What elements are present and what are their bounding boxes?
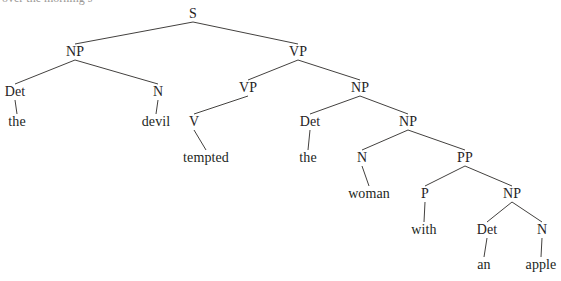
tree-edge-np2-np3 — [360, 96, 408, 114]
tree-node-n2: N — [357, 151, 367, 165]
tree-node-devil: devil — [142, 115, 171, 129]
tree-edge-np2-det2 — [310, 96, 360, 114]
tree-node-n3: N — [537, 223, 547, 237]
tree-edge-s-vp1 — [193, 22, 298, 44]
tree-node-an: an — [477, 258, 490, 272]
tree-node-the1: the — [8, 115, 25, 129]
tree-edge-pp1-np4 — [465, 166, 512, 186]
tree-node-vp2: VP — [239, 81, 257, 95]
tree-node-vp1: VP — [289, 45, 307, 59]
tree-edge-s-np1 — [75, 22, 193, 44]
tree-edge-vp1-vp2 — [248, 60, 298, 80]
tree-node-p1: P — [421, 187, 429, 201]
tree-node-det1: Det — [5, 85, 26, 99]
tree-node-v1: V — [189, 115, 199, 129]
tree-edge-det1-the1 — [15, 100, 17, 114]
tree-node-woman: woman — [348, 187, 390, 201]
tree-edge-vp1-np2 — [298, 60, 360, 80]
tree-edge-np4-n3 — [512, 202, 542, 222]
tree-edge-np3-pp1 — [408, 130, 465, 150]
tree-node-np3: NP — [399, 115, 417, 129]
tree-edge-n1-devil — [156, 100, 158, 114]
tree-edge-pp1-p1 — [425, 166, 465, 186]
tree-node-det3: Det — [477, 223, 498, 237]
tree-node-s: S — [189, 7, 197, 21]
tree-edge-n2-woman — [362, 166, 369, 186]
syntax-tree-figure: over the morning s SNPVPDetNVPNPthedevil… — [0, 0, 561, 281]
tree-edge-v1-tempted — [194, 130, 206, 150]
tree-edge-p1-with — [424, 202, 425, 222]
tree-edge-np1-det1 — [15, 60, 75, 84]
tree-edge-det3-an — [484, 238, 487, 257]
tree-node-tempted: tempted — [183, 151, 229, 165]
tree-node-n1: N — [153, 85, 163, 99]
tree-edge-det2-the2 — [308, 130, 310, 150]
tree-node-pp1: PP — [457, 151, 473, 165]
tree-edge-np4-det3 — [487, 202, 512, 222]
tree-node-np1: NP — [66, 45, 84, 59]
tree-edge-vp2-v1 — [194, 96, 248, 114]
tree-edge-np3-n2 — [362, 130, 408, 150]
tree-edge-np1-n1 — [75, 60, 158, 84]
tree-edges-layer — [0, 0, 561, 281]
tree-node-the2: the — [299, 151, 316, 165]
tree-edge-n3-apple — [541, 238, 542, 257]
tree-node-det2: Det — [300, 115, 321, 129]
tree-node-np2: NP — [351, 81, 369, 95]
tree-node-with: with — [411, 223, 436, 237]
tree-node-apple: apple — [526, 258, 557, 272]
tree-node-np4: NP — [503, 187, 521, 201]
